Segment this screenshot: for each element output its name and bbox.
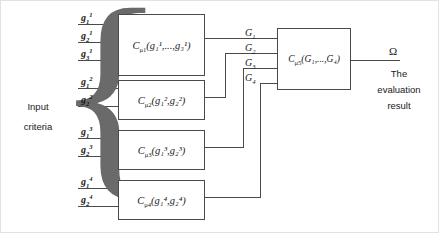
aggregator-block-4: Cμ4(g₁⁴,g₂⁴) (118, 180, 205, 220)
aggregator-block-1-label: Cμ1(g₁¹,...,g₃¹) (132, 40, 190, 51)
input-label-g-1-2: g12 (81, 76, 93, 87)
input-label-g-1-1: g11 (81, 12, 93, 23)
input-label-g-2-3: g23 (81, 144, 93, 155)
output-caption-line1: The (368, 68, 430, 79)
input-label-g-1-3: g13 (81, 126, 93, 137)
output-symbol: Ω (389, 45, 397, 57)
aggregator-block-1: Cμ1(g₁¹,...,g₃¹) (118, 14, 205, 76)
wire-G2 (205, 53, 277, 97)
input-label-g-2-1: g21 (81, 30, 93, 41)
aggregator-block-3-label: Cμ3(g₁³,g₂³) (138, 145, 186, 156)
input-criteria-label-line2: criteria (10, 121, 66, 132)
aggregator-block-2: Cμ2(g₁²,g₂²) (118, 80, 205, 120)
input-label-g-2-2: g22 (81, 94, 93, 105)
output-caption-line3: result (368, 100, 430, 111)
signal-label-G3: G3 (245, 57, 256, 68)
final-aggregator-label: Cμ5(G₁,...,G₄) (288, 54, 340, 64)
aggregator-block-2-label: Cμ2(g₁²,g₂²) (138, 95, 186, 106)
signal-label-G2: G2 (245, 42, 256, 53)
aggregator-block-4-label: Cμ4(g₁⁴,g₂⁴) (137, 195, 186, 206)
choquet-hierarchy-diagram: { Input criteria g11 g21 g31 g12 g22 g13… (0, 0, 439, 233)
final-aggregator-block: Cμ5(G₁,...,G₄) (277, 28, 351, 90)
signal-label-G1: G1 (245, 27, 256, 38)
wire-G3 (205, 68, 277, 147)
output-caption-line2: evaluation (364, 84, 434, 95)
input-criteria-label-line1: Input (14, 101, 62, 112)
input-label-g-1-4: g14 (81, 176, 93, 187)
aggregator-block-3: Cμ3(g₁³,g₂³) (118, 130, 205, 170)
signal-label-G4: G4 (245, 72, 256, 83)
input-label-g-2-4: g24 (81, 194, 93, 205)
wire-G4 (205, 83, 277, 197)
input-label-g-3-1: g31 (81, 48, 93, 59)
